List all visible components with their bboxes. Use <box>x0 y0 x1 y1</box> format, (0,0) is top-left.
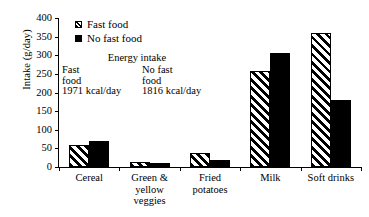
y-tick-label: 150 <box>12 106 52 117</box>
x-tick-label: Soft drinks <box>288 172 369 184</box>
x-tick-mark <box>361 167 362 171</box>
x-axis-tick-labels: CerealGreen &yellowveggiesFriedpotatoesM… <box>59 172 361 216</box>
annotation-no-fast-food-line1: No fast <box>142 65 212 76</box>
annotation-columns: Fast food 1971 kcal/day No fast food 181… <box>62 65 212 97</box>
bar-no-fast-food <box>210 160 230 167</box>
y-tick-label: 100 <box>12 125 52 136</box>
bar-fast-food <box>250 71 270 167</box>
y-tick-mark <box>55 55 59 56</box>
y-tick-mark <box>55 18 59 19</box>
y-axis-tick-labels: 050100150200250300350400 <box>12 12 52 172</box>
annotation-column-no-fast-food: No fast food 1816 kcal/day <box>142 65 212 97</box>
annotation-title: Energy intake <box>62 52 212 64</box>
annotation-no-fast-food-value: 1816 kcal/day <box>142 86 212 97</box>
bar-fast-food <box>130 162 150 167</box>
y-tick-mark <box>55 93 59 94</box>
bar-no-fast-food <box>331 100 351 167</box>
y-tick-mark <box>55 111 59 112</box>
x-tick-label-line: Soft drinks <box>288 172 369 184</box>
bar-chart-figure: Intake (g/day) 050100150200250300350400 … <box>0 0 369 217</box>
bar-fast-food <box>311 33 331 167</box>
energy-intake-annotation: Energy intake Fast food 1971 kcal/day No… <box>62 52 212 97</box>
x-axis-line <box>58 167 361 168</box>
legend-item-no-fast-food: No fast food <box>75 31 142 45</box>
y-tick-label: 400 <box>12 13 52 24</box>
x-tick-mark <box>59 167 60 171</box>
x-tick-label-line: potatoes <box>167 184 253 196</box>
bar-no-fast-food <box>150 163 170 167</box>
bar-no-fast-food <box>270 53 290 167</box>
annotation-fast-food-value: 1971 kcal/day <box>62 86 132 97</box>
legend-swatch-solid-icon <box>75 35 82 42</box>
y-tick-label: 200 <box>12 87 52 98</box>
annotation-fast-food-line1: Fast <box>62 65 132 76</box>
y-tick-label: 50 <box>12 143 52 154</box>
bar-fast-food <box>69 145 89 167</box>
legend-item-fast-food: Fast food <box>75 17 142 31</box>
chart-legend: Fast food No fast food <box>75 17 142 45</box>
x-tick-mark <box>180 167 181 171</box>
bar-group <box>311 18 351 167</box>
y-tick-mark <box>55 148 59 149</box>
x-tick-mark <box>301 167 302 171</box>
y-tick-label: 350 <box>12 31 52 42</box>
legend-label-fast-food: Fast food <box>87 18 128 30</box>
bar-no-fast-food <box>89 141 109 167</box>
legend-swatch-hatch-icon <box>75 21 82 28</box>
x-tick-label-line: veggies <box>107 195 193 207</box>
bar-group <box>250 18 290 167</box>
annotation-column-fast-food: Fast food 1971 kcal/day <box>62 65 132 97</box>
y-tick-mark <box>55 74 59 75</box>
y-tick-mark <box>55 37 59 38</box>
y-tick-label: 300 <box>12 50 52 61</box>
y-tick-mark <box>55 130 59 131</box>
bar-fast-food <box>190 153 210 167</box>
x-tick-mark <box>119 167 120 171</box>
x-tick-mark <box>240 167 241 171</box>
y-tick-label: 250 <box>12 69 52 80</box>
legend-label-no-fast-food: No fast food <box>87 32 142 44</box>
y-tick-label: 0 <box>12 162 52 173</box>
